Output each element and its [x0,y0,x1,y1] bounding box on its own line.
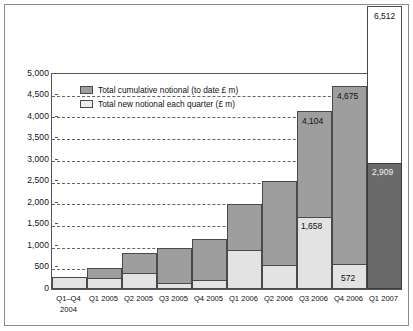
bar-segment-new[interactable] [122,273,157,289]
bar-q2-2005[interactable] [122,253,157,289]
legend-label-cumulative: Total cumulative notional (to date £ m) [98,85,238,95]
legend-item-new[interactable]: Total new notional each quarter (£ m) [80,98,238,110]
bar-q1-2006[interactable] [227,204,262,289]
bar-q3-2006[interactable]: 4,104 1,658 [297,111,332,289]
y-tick-5000: 5,000 [27,68,49,78]
x-tick-line1: Q1–Q4 [51,294,86,305]
legend-item-cumulative[interactable]: Total cumulative notional (to date £ m) [80,84,238,96]
x-tick-q3-2005: Q3 2005 [156,294,191,305]
y-tick-2500: 2,500 [27,175,49,185]
x-tick-q2-2005: Q2 2005 [121,294,156,305]
bar-segment-new[interactable] [52,277,87,289]
y-tick-1500: 1,500 [27,218,49,228]
y-axis: 5,000 4,500 4,000 3,500 3,000 2,500 2,00… [11,65,49,298]
bar-q1-2007[interactable]: 6,512 2,909 [367,6,402,289]
x-tick-q1q4-2004: Q1–Q4 2004 [51,294,86,315]
data-label-q3-2006-cumulative: 4,104 [302,116,323,126]
bar-segment-new[interactable] [87,278,122,289]
data-label-q3-2006-new: 1,658 [301,221,322,231]
bar-segment-new[interactable] [192,280,227,289]
legend: Total cumulative notional (to date £ m) … [80,84,238,112]
x-tick-q2-2006: Q2 2006 [261,294,296,305]
bar-segment-new[interactable] [367,163,402,289]
y-tick-3000: 3,000 [27,154,49,164]
bar-segment-new[interactable] [227,250,262,289]
legend-label-new: Total new notional each quarter (£ m) [98,99,235,109]
x-tick-q1-2007: Q1 2007 [366,294,401,305]
data-label-q1-2007-new: 2,909 [372,167,393,177]
x-tick-line2: 2004 [51,305,86,316]
y-tick-4000: 4,000 [27,111,49,121]
bar-q1-2005[interactable] [87,268,122,289]
y-tick-4500: 4,500 [27,89,49,99]
x-tick-q1-2006: Q1 2006 [226,294,261,305]
y-tick-500: 500 [35,261,49,271]
figure-frame: 5,000 4,500 4,000 3,500 3,000 2,500 2,00… [4,4,409,326]
y-tick-2000: 2,000 [27,197,49,207]
cumulative-swatch-icon [80,86,93,94]
x-axis: Q1–Q4 2004 Q1 2005 Q2 2005 Q3 2005 Q4 20… [51,294,402,328]
data-label-q1-2007-cumulative: 6,512 [374,11,395,21]
bar-q2-2006[interactable] [262,181,297,290]
new-swatch-icon [80,100,93,108]
data-label-q4-2006-cumulative: 4,675 [337,91,358,101]
bar-q4-2006[interactable]: 4,675 572 [332,86,367,289]
bar-segment-cumulative[interactable] [332,86,367,289]
bar-q3-2005[interactable] [157,248,192,289]
y-tick-0: 0 [44,283,49,293]
x-tick-q3-2006: Q3 2006 [296,294,331,305]
y-tick-1000: 1,000 [27,240,49,250]
y-tick-3500: 3,500 [27,132,49,142]
data-label-q4-2006-new: 572 [341,273,355,283]
plot-area: 4,104 1,658 4,675 572 6,512 2,909 [51,73,402,290]
chart-page: 5,000 4,500 4,000 3,500 3,000 2,500 2,00… [0,0,413,331]
bar-segment-new[interactable] [262,265,297,289]
bar-q4-2005[interactable] [192,239,227,289]
x-tick-q1-2005: Q1 2005 [86,294,121,305]
bar-segment-new[interactable] [157,283,192,289]
x-tick-q4-2006: Q4 2006 [331,294,366,305]
x-tick-q4-2005: Q4 2005 [191,294,226,305]
bar-q1q4-2004[interactable] [52,277,87,289]
